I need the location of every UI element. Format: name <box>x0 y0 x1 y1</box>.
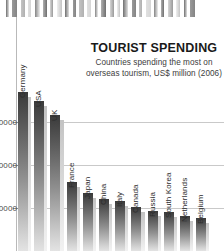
decor-tick <box>161 0 164 17</box>
decor-tick <box>57 0 62 17</box>
decor-tick <box>79 0 84 17</box>
decor-tick <box>35 0 40 17</box>
bar-shadow <box>206 223 209 251</box>
decor-tick <box>168 0 173 17</box>
bar-label: USA <box>34 90 43 107</box>
bar-shadow <box>190 221 193 251</box>
bar[interactable] <box>67 182 77 251</box>
chart-subtitle-line2: overseas tourism, US$ million (2006) <box>86 69 222 78</box>
top-decorative-strip <box>0 0 224 17</box>
bar-label: Canada <box>131 184 140 213</box>
bar-label: France <box>67 162 76 188</box>
bar-shadow <box>141 212 144 251</box>
bar-shadow <box>60 120 63 251</box>
decor-tick <box>65 0 69 17</box>
y-tick-label: 40000 <box>0 161 17 170</box>
bar-group[interactable] <box>99 199 109 251</box>
decor-tick <box>123 0 128 17</box>
decor-tick <box>139 0 142 17</box>
bar[interactable] <box>34 101 44 251</box>
bar-shadow <box>77 187 80 251</box>
bar[interactable] <box>99 199 109 251</box>
bar-label: Netherlands <box>180 178 189 222</box>
bar-group[interactable] <box>131 207 141 251</box>
bar-group[interactable] <box>115 201 125 251</box>
bar-label: Germany <box>18 65 27 99</box>
bar-label: China <box>99 183 108 204</box>
chart-subtitle: Countries spending the most on overseas … <box>84 58 224 79</box>
decor-tick <box>154 0 158 17</box>
y-tick-label: 60000 <box>0 118 17 127</box>
chart-subtitle-line1: Countries spending the most on <box>95 58 212 67</box>
bar-group[interactable] <box>34 101 44 251</box>
decor-tick <box>43 0 47 17</box>
decor-tick <box>146 0 151 17</box>
bar[interactable] <box>83 193 93 251</box>
decor-tick <box>184 0 187 17</box>
chart-container: 600004000020000 GermanyUSAUKFranceJapanC… <box>0 0 224 251</box>
bar-shadow <box>109 204 112 251</box>
bar-shadow <box>93 198 96 251</box>
chart-title: TOURIST SPENDING <box>84 41 224 55</box>
decor-tick <box>12 0 17 17</box>
bar-group[interactable] <box>50 115 60 251</box>
decor-tick <box>73 0 76 17</box>
bar[interactable] <box>115 201 125 251</box>
decor-tick <box>190 0 195 17</box>
decor-tick <box>132 0 136 17</box>
decor-tick <box>110 0 114 17</box>
bar-group[interactable] <box>67 182 77 251</box>
y-tick-label: 20000 <box>0 204 17 213</box>
decor-tick <box>28 0 31 17</box>
bar-label: UK <box>50 110 59 121</box>
bar-label: Belgium <box>196 194 205 224</box>
decor-tick <box>50 0 53 17</box>
bar-label: South Korea <box>164 172 173 218</box>
bar[interactable] <box>18 92 28 251</box>
bar-label: Russia <box>148 192 157 217</box>
bar-shadow <box>28 97 31 251</box>
y-axis-line <box>16 17 17 251</box>
decor-tick <box>95 0 98 17</box>
title-block: TOURIST SPENDING Countries spending the … <box>84 41 224 79</box>
bar-shadow <box>158 216 161 251</box>
decor-tick <box>87 0 91 17</box>
decor-tick <box>176 0 180 17</box>
bar-group[interactable] <box>18 92 28 251</box>
decor-tick <box>101 0 106 17</box>
bar[interactable] <box>50 115 60 251</box>
decor-tick <box>6 0 9 17</box>
bar-label: Japan <box>83 177 92 199</box>
bar-group[interactable] <box>83 193 93 251</box>
bar-shadow <box>174 217 177 251</box>
bar-shadow <box>125 206 128 251</box>
bar-label: Italy <box>115 192 124 207</box>
bar-shadow <box>44 106 47 251</box>
decor-tick <box>21 0 25 17</box>
decor-tick <box>117 0 120 17</box>
bar[interactable] <box>131 207 141 251</box>
